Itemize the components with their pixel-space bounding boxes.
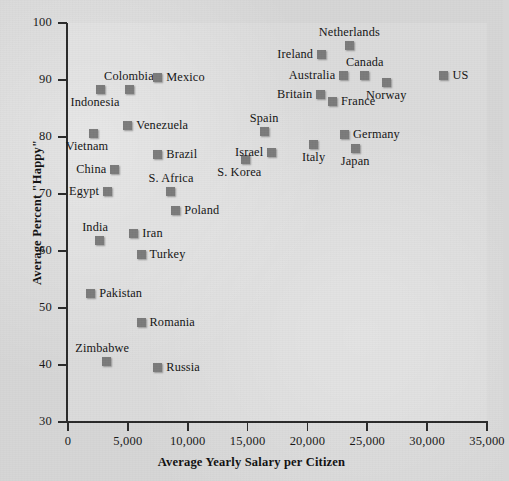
y-tick-mark bbox=[58, 193, 67, 195]
y-axis-title: Average Percent "Happy" bbox=[30, 13, 45, 413]
data-point-label: Netherlands bbox=[319, 25, 380, 40]
data-point[interactable] bbox=[96, 85, 105, 94]
data-point[interactable] bbox=[86, 289, 95, 298]
x-tick-mark bbox=[426, 422, 428, 431]
data-point-label: Ireland bbox=[277, 47, 313, 62]
data-point[interactable] bbox=[328, 97, 337, 106]
data-point[interactable] bbox=[351, 144, 360, 153]
data-point-label: Israel bbox=[235, 145, 263, 160]
x-axis-title: Average Yearly Salary per Citizen bbox=[0, 455, 503, 470]
data-point-label: Iran bbox=[142, 226, 162, 241]
data-point[interactable] bbox=[95, 236, 104, 245]
data-point-label: Canada bbox=[346, 55, 384, 70]
data-point[interactable] bbox=[166, 187, 175, 196]
x-tick-mark bbox=[307, 422, 309, 431]
data-point-label: Zimbabwe bbox=[75, 341, 129, 356]
data-point[interactable] bbox=[317, 50, 326, 59]
data-point[interactable] bbox=[309, 140, 318, 149]
data-point-label: Vietnam bbox=[66, 139, 109, 154]
data-point-label: Britain bbox=[277, 87, 312, 102]
data-point-label: Romania bbox=[150, 315, 195, 330]
data-point[interactable] bbox=[110, 165, 119, 174]
data-point-label: Poland bbox=[184, 203, 219, 218]
data-point-label: Brazil bbox=[166, 147, 197, 162]
data-point-label: Mexico bbox=[166, 70, 204, 85]
y-tick-mark bbox=[58, 421, 67, 423]
x-tick-mark bbox=[67, 422, 69, 431]
data-point-label: Colombia bbox=[104, 69, 154, 84]
data-point[interactable] bbox=[340, 130, 349, 139]
data-point[interactable] bbox=[103, 187, 112, 196]
data-point[interactable] bbox=[153, 363, 162, 372]
data-point[interactable] bbox=[102, 357, 111, 366]
data-point-label: Egypt bbox=[69, 184, 99, 199]
data-point[interactable] bbox=[137, 250, 146, 259]
x-tick-mark bbox=[366, 422, 368, 431]
data-point-label: China bbox=[76, 162, 106, 177]
data-point[interactable] bbox=[89, 129, 98, 138]
data-point-label: Venezuela bbox=[136, 118, 188, 133]
y-tick-mark bbox=[58, 79, 67, 81]
data-point-label: S. Africa bbox=[148, 171, 193, 186]
data-point-label: Indonesia bbox=[70, 95, 119, 110]
data-point[interactable] bbox=[316, 90, 325, 99]
data-point-label: US bbox=[452, 68, 468, 83]
x-tick-mark bbox=[247, 422, 249, 431]
y-axis-line bbox=[66, 23, 68, 423]
data-point[interactable] bbox=[382, 78, 391, 87]
data-point[interactable] bbox=[153, 150, 162, 159]
data-point[interactable] bbox=[171, 206, 180, 215]
y-tick-label: 30 bbox=[12, 414, 52, 429]
data-point-label: Spain bbox=[250, 111, 279, 126]
y-tick-mark bbox=[58, 22, 67, 24]
data-point[interactable] bbox=[360, 71, 369, 80]
y-tick-mark bbox=[58, 364, 67, 366]
data-point-label: Japan bbox=[341, 154, 370, 169]
y-tick-mark bbox=[58, 250, 67, 252]
x-axis-line bbox=[66, 421, 488, 423]
x-tick-mark bbox=[127, 422, 129, 431]
data-point[interactable] bbox=[125, 85, 134, 94]
data-point-label: Turkey bbox=[150, 247, 186, 262]
data-point[interactable] bbox=[260, 127, 269, 136]
data-point[interactable] bbox=[267, 148, 276, 157]
x-tick-mark bbox=[187, 422, 189, 431]
x-tick-label: 35,000 bbox=[452, 434, 509, 449]
data-point[interactable] bbox=[123, 121, 132, 130]
data-point-label: Russia bbox=[166, 360, 200, 375]
data-point-label: Australia bbox=[289, 68, 335, 83]
data-point-label: S. Korea bbox=[217, 165, 261, 180]
y-tick-mark bbox=[58, 307, 67, 309]
data-point[interactable] bbox=[137, 318, 146, 327]
data-point[interactable] bbox=[153, 73, 162, 82]
data-point-label: India bbox=[82, 220, 108, 235]
data-point-label: Pakistan bbox=[99, 286, 142, 301]
data-point-label: Germany bbox=[353, 127, 400, 142]
x-tick-mark bbox=[486, 422, 488, 431]
data-point[interactable] bbox=[345, 41, 354, 50]
data-point-label: Norway bbox=[366, 88, 407, 103]
data-point[interactable] bbox=[129, 229, 138, 238]
data-point-label: Italy bbox=[302, 150, 325, 165]
data-point[interactable] bbox=[439, 71, 448, 80]
data-point[interactable] bbox=[339, 71, 348, 80]
